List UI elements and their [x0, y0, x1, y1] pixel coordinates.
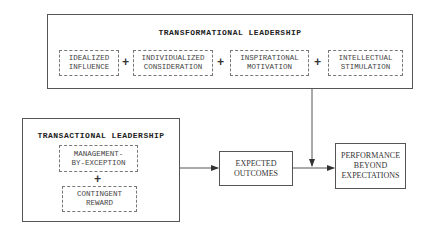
plus-operator: + — [94, 174, 101, 186]
contingent-reward-box: CONTINGENT REWARD — [62, 186, 137, 212]
plus-operator: + — [217, 57, 224, 69]
intellectual-stimulation-box: INTELLECTUAL STIMULATION — [328, 50, 403, 76]
individualized-consideration-box: INDIVIDUALIZED CONSIDERATION — [133, 50, 213, 76]
transactional-title: TRANSACTIONAL LEADERSHIP — [22, 131, 180, 140]
inspirational-motivation-box: INSPIRATIONAL MOTIVATION — [230, 50, 309, 76]
expected-outcomes-box: EXPECTED OUTCOMES — [219, 151, 293, 186]
plus-operator: + — [314, 57, 321, 69]
idealized-influence-box: IDEALIZED INFLUENCE — [59, 50, 119, 76]
transformational-title: TRANSFORMATIONAL LEADERSHIP — [47, 28, 413, 37]
performance-beyond-expectations-box: PERFORMANCE BEYOND EXPECTATIONS — [335, 143, 406, 189]
plus-operator: + — [122, 57, 129, 69]
management-by-exception-box: MANAGEMENT- BY-EXCEPTION — [59, 145, 138, 172]
